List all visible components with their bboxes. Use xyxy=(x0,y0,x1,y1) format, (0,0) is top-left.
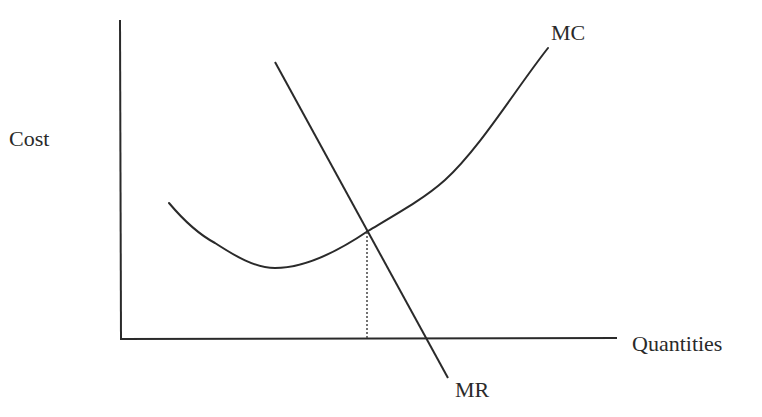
mr-line xyxy=(275,62,448,378)
y-axis xyxy=(120,20,121,340)
x-axis xyxy=(120,338,617,339)
y-axis-label: Cost xyxy=(9,128,49,150)
mc-curve-label: MC xyxy=(551,22,585,44)
mc-curve xyxy=(169,48,548,268)
x-axis-label: Quantities xyxy=(632,333,722,355)
mr-line-label: MR xyxy=(455,379,489,401)
mc-mr-diagram: Cost MC Quantities MR xyxy=(0,0,762,417)
